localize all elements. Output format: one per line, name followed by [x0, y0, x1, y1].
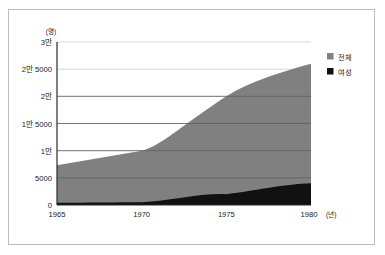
legend-swatch-total	[327, 53, 334, 60]
x-tick-label-1970: 1970	[133, 210, 150, 219]
legend-swatch-female	[327, 68, 334, 75]
legend-label-total: 전체	[338, 53, 352, 62]
y-tick-label-30000: 3만	[41, 38, 52, 47]
y-tick-label-10000: 1만	[41, 147, 52, 156]
legend-label-female: 여성	[338, 68, 352, 77]
y-tick-label-5000: 5000	[35, 174, 52, 183]
y-tick-label-0: 0	[48, 201, 52, 210]
y-tick-label-20000: 2만	[41, 92, 52, 101]
x-tick-label-1975: 1975	[218, 210, 235, 219]
area-chart: (명) 3만 2만 5000 2만 1만 5000 1만 5000 0 1965…	[0, 0, 385, 255]
chart-legend: 전체 여성	[327, 53, 352, 77]
x-tick-label-1965: 1965	[49, 210, 66, 219]
x-tick-label-1980: 1980	[301, 210, 318, 219]
y-axis-unit-label: (명)	[46, 27, 56, 36]
y-tick-label-15000: 1만 5000	[22, 120, 52, 129]
chart-figure: (명) 3만 2만 5000 2만 1만 5000 1만 5000 0 1965…	[0, 0, 385, 255]
y-tick-label-25000: 2만 5000	[22, 65, 52, 74]
x-axis-unit-label: (년)	[326, 210, 336, 219]
